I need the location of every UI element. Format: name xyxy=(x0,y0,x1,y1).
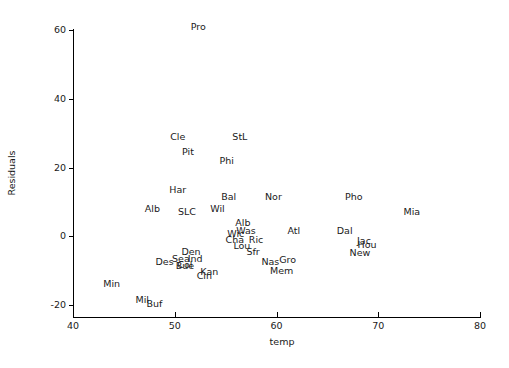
x-tick-mark xyxy=(378,312,379,317)
y-axis-line xyxy=(73,29,74,318)
x-tick-label: 40 xyxy=(67,321,79,331)
x-tick-mark xyxy=(73,312,74,317)
x-tick-label: 70 xyxy=(372,321,384,331)
data-point-label: New xyxy=(350,248,371,258)
x-tick-label: 60 xyxy=(270,321,282,331)
data-point-label: Phi xyxy=(219,156,233,166)
scatter-plot: 4050607080 -200204060 temp Residuals Pro… xyxy=(0,0,509,368)
x-tick-mark xyxy=(175,312,176,317)
data-point-label: Bal xyxy=(221,192,236,202)
x-tick-label: 80 xyxy=(474,321,486,331)
data-point-label: Wil xyxy=(210,204,224,214)
x-axis-line xyxy=(73,317,481,318)
data-point-label: Sfr xyxy=(246,247,259,257)
x-tick-label: 50 xyxy=(169,321,181,331)
y-tick-label: 60 xyxy=(34,25,66,35)
data-point-label: Min xyxy=(103,279,120,289)
y-tick-mark xyxy=(69,168,74,169)
data-point-label: Alb xyxy=(145,204,160,214)
y-tick-label: 0 xyxy=(34,231,66,241)
y-tick-mark xyxy=(69,99,74,100)
data-point-label: Cin xyxy=(197,271,212,281)
y-tick-label: -20 xyxy=(34,300,66,310)
y-axis-title: Residuals xyxy=(6,150,17,195)
data-point-label: Ric xyxy=(249,235,263,245)
data-point-label: Bue xyxy=(176,261,194,271)
data-point-label: Nor xyxy=(265,192,282,202)
data-point-label: Pro xyxy=(191,22,206,32)
x-tick-mark xyxy=(480,312,481,317)
data-point-label: Mem xyxy=(270,266,293,276)
data-point-label: Des xyxy=(156,257,174,267)
data-point-label: StL xyxy=(232,132,247,142)
x-axis-title: temp xyxy=(270,336,295,347)
data-point-label: Atl xyxy=(287,226,300,236)
data-point-label: Mia xyxy=(403,207,420,217)
y-tick-mark xyxy=(69,30,74,31)
data-point-label: Buf xyxy=(146,299,162,309)
x-tick-mark xyxy=(277,312,278,317)
data-point-label: SLC xyxy=(178,207,196,217)
y-tick-label: 20 xyxy=(34,163,66,173)
y-tick-mark xyxy=(69,236,74,237)
data-point-label: Cle xyxy=(170,132,185,142)
data-point-label: Har xyxy=(169,185,186,195)
data-point-label: Pho xyxy=(345,192,363,202)
data-point-label: Pit xyxy=(182,147,194,157)
y-tick-mark xyxy=(69,305,74,306)
y-tick-label: 40 xyxy=(34,94,66,104)
data-point-label: Dal xyxy=(337,226,353,236)
